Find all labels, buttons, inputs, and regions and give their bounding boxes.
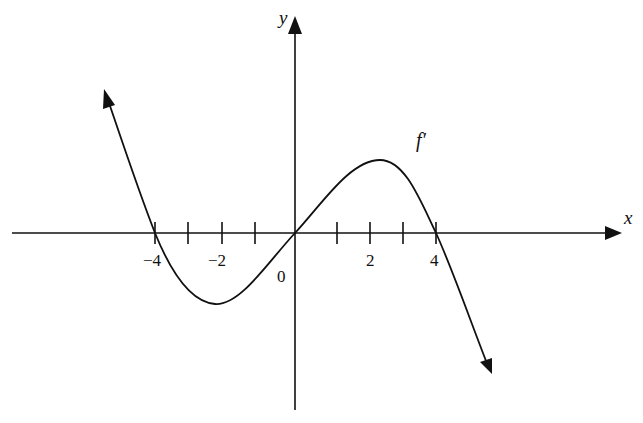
origin-label: 0 [277,267,286,286]
x-axis-arrow-icon [605,226,622,240]
tick-label-4: 4 [430,251,439,270]
y-axis-label: y [277,7,288,28]
curve-right-arrow-icon [480,358,492,374]
tick-label-2: 2 [366,251,375,270]
x-axis [12,226,622,240]
tick-label-neg2: −2 [208,251,226,270]
chart-canvas: −4 −2 2 4 0 x y f′ [0,0,643,423]
y-axis [288,16,302,410]
curve-left-arrow-icon [103,89,115,109]
tick-label-neg4: −4 [143,251,162,270]
x-axis-label: x [623,207,633,228]
y-axis-arrow-icon [288,16,302,34]
function-label: f′ [416,129,427,152]
